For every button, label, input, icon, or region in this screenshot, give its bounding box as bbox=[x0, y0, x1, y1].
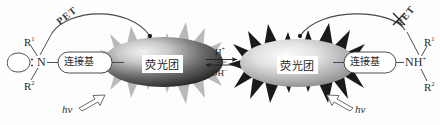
left-linker-label: 连接基 bbox=[64, 57, 95, 67]
equilibrium-forward-label: H+ bbox=[215, 46, 225, 57]
right-hv-arrow-icon bbox=[327, 95, 353, 111]
left-hv-arrow-icon bbox=[79, 95, 105, 111]
right-fluorophore-label: 荧光团 bbox=[277, 56, 318, 74]
right-pet-arrow bbox=[300, 14, 405, 36]
left-r2-label: R2 bbox=[24, 80, 35, 92]
left-fluorophore-label: 荧光团 bbox=[142, 55, 183, 73]
right-r2-label: R2 bbox=[424, 81, 435, 93]
right-linker-label: 连接基 bbox=[350, 57, 381, 67]
right-hv-label: hv bbox=[355, 104, 365, 115]
right-nitrogen-label: NH+ bbox=[404, 56, 427, 68]
left-hv-label: hv bbox=[62, 104, 72, 115]
left-r1-label: R1 bbox=[24, 36, 35, 48]
pet-fluorescence-diagram: R1 R2 N 连接基 荧光团 PET hv H+ OH− 荧光团 连接基 NH… bbox=[0, 0, 440, 125]
lone-pair-lobe-icon bbox=[7, 53, 30, 72]
equilibrium-reverse-label: OH− bbox=[211, 67, 227, 78]
lone-pair-dots-icon bbox=[31, 59, 33, 67]
left-nitrogen-label: N bbox=[36, 56, 47, 68]
right-r1-label: R1 bbox=[424, 36, 435, 48]
